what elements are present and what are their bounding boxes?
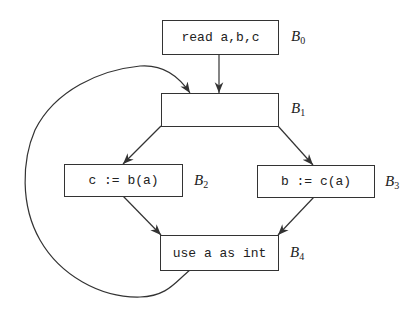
block-b4-label: B4	[290, 244, 304, 262]
block-b2: c := b(a)	[64, 164, 183, 197]
block-b3-code: b := c(a)	[281, 174, 351, 189]
block-b2-code: c := b(a)	[88, 173, 158, 188]
edge-b3-b4	[278, 197, 314, 235]
edge-b2-b4	[123, 196, 161, 235]
edge-b1-b2	[123, 126, 161, 164]
edge-b1-b3	[278, 126, 313, 165]
block-b3: b := c(a)	[257, 165, 375, 198]
block-b1-label: B1	[291, 100, 305, 118]
block-b1	[161, 93, 279, 127]
block-b3-label: B3	[385, 173, 399, 191]
block-b2-label: B2	[194, 172, 208, 190]
block-b0-code: read a,b,c	[181, 30, 259, 45]
block-b0-label: B0	[291, 28, 305, 46]
block-b0: read a,b,c	[162, 20, 279, 55]
block-b4-code: use a as int	[173, 246, 267, 261]
cfg-diagram: read a,b,c B0 B1 c := b(a) B2 b := c(a) …	[0, 0, 419, 314]
block-b4: use a as int	[160, 235, 279, 271]
